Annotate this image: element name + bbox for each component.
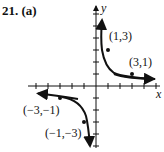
curve-branch-q3-left [38, 94, 78, 100]
y-axis-label: y [101, 2, 106, 14]
hyperbola-graph [0, 0, 164, 152]
x-axis-label: x [156, 88, 161, 100]
point-3-1 [130, 72, 134, 76]
point-label-3-1: (3,1) [129, 56, 152, 68]
point-1-3 [106, 48, 110, 52]
point-label-neg3-neg1: (−3,−1) [23, 104, 60, 116]
point-neg1-neg3 [82, 120, 86, 124]
point-label-neg1-neg3: (−1,−3) [45, 127, 82, 139]
point-label-1-3: (1,3) [109, 30, 132, 42]
point-neg3-neg1 [58, 96, 62, 100]
curve-branch-q3 [60, 98, 84, 122]
